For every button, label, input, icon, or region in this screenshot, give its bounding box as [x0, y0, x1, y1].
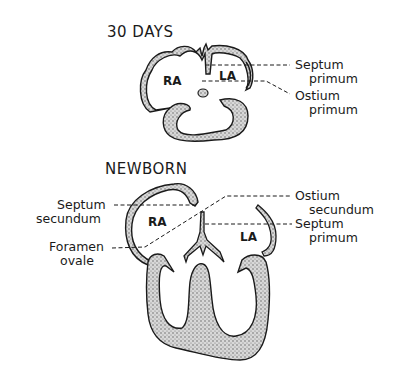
ventricles-newborn	[147, 254, 270, 360]
annotation-septum-primum-newborn-line2: primum	[309, 231, 358, 245]
annotation-ostium-primum-line1: Ostium	[295, 89, 340, 103]
heart-30-days	[140, 44, 290, 141]
septum-primum-newborn	[184, 212, 224, 262]
chamber-label-ra-newborn: RA	[148, 215, 167, 229]
panel-title-newborn: NEWBORN	[105, 161, 188, 177]
annotation-foramen-ovale-line2: ovale	[60, 254, 94, 268]
annotation-septum-primum-30-line2: primum	[309, 72, 358, 86]
annotation-ostium-secundum-line2: secundum	[309, 203, 374, 217]
annotation-foramen-ovale-line1: Foramen	[49, 240, 104, 254]
annotation-ostium-secundum-line1: Ostium	[295, 189, 340, 203]
heart-development-diagram: 30 DAYS RA LA Septum primum Ostium primu…	[0, 0, 397, 378]
endocardial-cushion	[198, 89, 208, 97]
chamber-label-la-30: LA	[219, 69, 236, 83]
heart-newborn	[112, 184, 292, 360]
annotation-septum-primum-newborn-line1: Septum	[295, 217, 344, 231]
annotation-septum-secundum-line1: Septum	[57, 198, 106, 212]
panel-title-30-days: 30 DAYS	[107, 24, 173, 40]
la-wall-newborn	[256, 205, 276, 256]
chamber-label-ra-30: RA	[163, 74, 182, 88]
chamber-label-la-newborn: LA	[240, 230, 257, 244]
ventricle-30-days	[163, 99, 248, 141]
annotation-septum-secundum-line2: secundum	[36, 212, 101, 226]
annotation-septum-primum-30-line1: Septum	[295, 58, 344, 72]
annotation-ostium-primum-line2: primum	[309, 103, 358, 117]
